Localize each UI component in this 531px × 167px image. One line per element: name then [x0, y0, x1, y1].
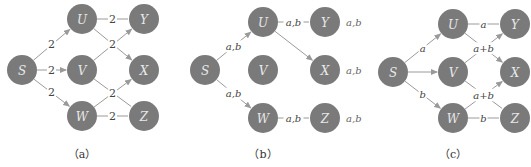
node-label: W — [447, 112, 461, 126]
side-label-Z: a,b — [346, 113, 362, 124]
node-Y: Y — [500, 9, 530, 39]
edge-label: 2 — [109, 13, 116, 26]
panel-caption: （c） — [439, 148, 467, 161]
node-X: X — [129, 55, 159, 85]
nodes: SUVWYXZ — [190, 7, 340, 133]
edge-label: a+b — [473, 90, 494, 101]
node-S: S — [7, 55, 37, 85]
node-label: S — [201, 64, 209, 78]
node-Y: Y — [129, 4, 159, 34]
node-Y: Y — [310, 7, 340, 37]
panel-b: a,ba,ba,ba,bSUVWYXZa,ba,ba,b（b） — [190, 7, 362, 161]
node-label: W — [76, 110, 90, 124]
edge-label: a,b — [226, 41, 242, 52]
node-W: W — [248, 103, 278, 133]
edge-label: 2 — [48, 64, 55, 77]
node-Z: Z — [310, 103, 340, 133]
node-Z: Z — [129, 101, 159, 131]
node-label: S — [18, 64, 26, 78]
edge-label: 2 — [109, 87, 116, 100]
node-label: Z — [320, 112, 330, 126]
edge-label: 2 — [48, 86, 55, 99]
node-label: W — [257, 112, 271, 126]
nodes: SUVWYXZ — [7, 4, 159, 131]
edge-label: a,b — [286, 113, 302, 124]
nodes: SUVWYXZ — [378, 9, 530, 133]
node-label: V — [259, 64, 269, 78]
node-W: W — [438, 103, 468, 133]
node-X: X — [310, 55, 340, 85]
node-S: S — [190, 55, 220, 85]
node-U: U — [248, 7, 278, 37]
node-label: X — [510, 66, 520, 80]
edge-U-X — [275, 31, 312, 60]
edge-label: b — [419, 89, 425, 100]
node-V: V — [438, 57, 468, 87]
node-W: W — [67, 101, 97, 131]
node-V: V — [248, 55, 278, 85]
node-Z: Z — [500, 103, 530, 133]
node-X: X — [500, 57, 530, 87]
edge-label: 2 — [48, 38, 55, 51]
node-label: U — [258, 16, 269, 30]
edge-label: 2 — [109, 38, 116, 51]
edge-label: a,b — [226, 88, 242, 99]
panel-c: abaa+ba+ba+bbSUVWYXZ（c） — [378, 9, 530, 161]
node-S: S — [378, 57, 408, 87]
network-coding-diagram: 2222222SUVWYXZ（a）a,ba,ba,ba,bSUVWYXZa,ba… — [0, 0, 531, 167]
node-label: X — [139, 64, 149, 78]
node-U: U — [67, 4, 97, 34]
side-label-Y: a,b — [346, 17, 362, 28]
panel-caption: （b） — [248, 148, 277, 161]
node-label: V — [449, 66, 459, 80]
node-label: U — [448, 18, 459, 32]
node-label: V — [78, 64, 88, 78]
panel-caption: （a） — [68, 148, 97, 161]
node-label: Y — [140, 13, 149, 27]
node-U: U — [438, 9, 468, 39]
side-label-X: a,b — [346, 65, 362, 76]
edge-label: 2 — [109, 110, 116, 123]
node-V: V — [67, 55, 97, 85]
node-label: Z — [510, 112, 520, 126]
edge-label: a — [420, 43, 426, 54]
node-label: Y — [321, 16, 330, 30]
node-label: U — [77, 13, 88, 27]
edge-label: a,b — [286, 17, 302, 28]
node-label: S — [389, 66, 397, 80]
edge-label: a+b — [473, 43, 494, 54]
edge-label: a — [481, 19, 487, 30]
node-label: Z — [139, 110, 149, 124]
node-label: Y — [511, 18, 520, 32]
node-label: X — [320, 64, 330, 78]
panel-a: 2222222SUVWYXZ（a） — [7, 4, 159, 161]
edge-label: b — [480, 113, 486, 124]
